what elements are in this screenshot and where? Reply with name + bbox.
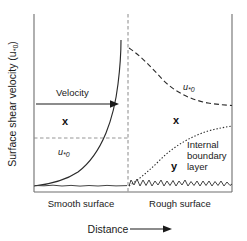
region-label-x-right: x — [173, 114, 180, 126]
velocity-label: Velocity — [56, 87, 89, 98]
u-star-zero-left-subscript: *0 — [63, 151, 70, 158]
svg-text:Surface shear velocity (u*0): Surface shear velocity (u*0) — [6, 41, 19, 167]
region-label-x-left: x — [62, 115, 69, 127]
rough-surface-panel: u*0 x y Internal boundary layer — [129, 48, 232, 186]
velocity-profile-curve — [34, 40, 121, 186]
distance-arrow-head — [163, 226, 172, 233]
ibl-line-3: layer — [187, 161, 208, 172]
x-axis-title: Distance — [88, 223, 129, 235]
rough-ground-surface-line — [129, 179, 232, 186]
ibl-line-2: boundary — [187, 150, 227, 161]
u-star-zero-right-subscript: *0 — [188, 86, 195, 93]
x-tick-label-smooth-surface: Smooth surface — [48, 198, 115, 209]
velocity-arrow — [36, 100, 119, 108]
shear-velocity-decay-curve — [129, 48, 232, 106]
y-axis-title-main: Surface shear velocity (u — [6, 51, 18, 167]
chart-canvas: Surface shear velocity (u*0) V — [0, 0, 247, 241]
smooth-surface-panel: Velocity x u*0 — [34, 40, 128, 186]
x-tick-label-rough-surface: Rough surface — [149, 198, 211, 209]
region-label-y-right: y — [171, 160, 178, 172]
y-axis-title: Surface shear velocity (u*0) — [6, 41, 19, 167]
ibl-line-1: Internal — [187, 139, 219, 150]
u-star-zero-label-right: u*0 — [183, 82, 195, 93]
y-axis-title-close: ) — [6, 41, 18, 45]
x-axis-title-group: Distance — [88, 223, 172, 235]
shear-velocity-boundary-layer-figure: Surface shear velocity (u*0) V — [0, 0, 247, 241]
smooth-ground-surface-line — [35, 185, 127, 186]
internal-boundary-layer-label: Internal boundary layer — [187, 139, 227, 172]
x-axis-tick-labels: Smooth surface Rough surface — [48, 198, 211, 209]
u-star-zero-label-left: u*0 — [58, 147, 70, 158]
